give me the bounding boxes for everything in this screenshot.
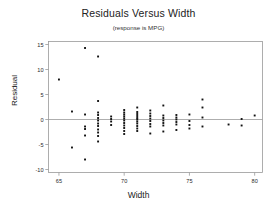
svg-text:15: 15 [37, 42, 43, 48]
x-axis-ticks: 65707580 [56, 173, 258, 185]
svg-text:75: 75 [186, 178, 192, 184]
scatter-plot-canvas: 65707580 151050-5-10 [0, 0, 277, 210]
svg-text:80: 80 [252, 178, 258, 184]
svg-text:0: 0 [40, 117, 43, 123]
svg-text:-10: -10 [35, 167, 43, 173]
svg-text:5: 5 [40, 92, 43, 98]
svg-text:65: 65 [56, 178, 62, 184]
svg-text:10: 10 [37, 67, 43, 73]
data-points [58, 47, 256, 160]
svg-text:70: 70 [121, 178, 127, 184]
svg-text:-5: -5 [39, 142, 44, 148]
plot-frame [49, 42, 263, 173]
y-axis-ticks: 151050-5-10 [35, 42, 48, 173]
chart-figure: Residuals Versus Width (response is MPG)… [0, 0, 277, 210]
